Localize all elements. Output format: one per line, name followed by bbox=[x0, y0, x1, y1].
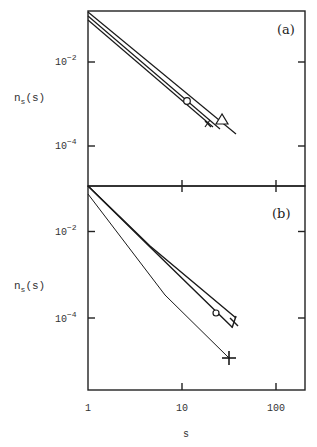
x-axis-label: s bbox=[183, 429, 189, 440]
panel-a-label: (a) bbox=[277, 22, 295, 37]
xtick-label-1: 1 bbox=[85, 403, 91, 414]
ytick-exponent: −4 bbox=[67, 310, 77, 319]
panel-b-series bbox=[88, 186, 238, 365]
axes-frames bbox=[88, 11, 305, 390]
figure bbox=[0, 0, 317, 447]
series-a1-line bbox=[88, 12, 236, 134]
ytick-exponent: −2 bbox=[67, 223, 77, 232]
panel-a-frame bbox=[88, 11, 305, 186]
ylabel-arg: (s) bbox=[25, 280, 45, 292]
ticks bbox=[88, 62, 305, 390]
ytick-base: 10 bbox=[55, 57, 67, 68]
ytick-exponent: −4 bbox=[67, 137, 77, 146]
panel-a-series bbox=[88, 12, 236, 134]
y-axis-label-b: ns(s) bbox=[14, 280, 45, 294]
panel-b-label: (b) bbox=[272, 206, 290, 221]
ytick-b-1e-2: 10−2 bbox=[55, 224, 77, 238]
ytick-base: 10 bbox=[55, 227, 67, 238]
xtick-label-10: 10 bbox=[176, 403, 188, 414]
ytick-a-1e-4: 10−4 bbox=[55, 138, 77, 152]
ylabel-n: n bbox=[14, 92, 21, 104]
circle-marker bbox=[213, 310, 219, 316]
series-b3-line bbox=[88, 194, 229, 358]
ylabel-n: n bbox=[14, 280, 21, 292]
ytick-base: 10 bbox=[55, 314, 67, 325]
series-a3-line bbox=[88, 20, 213, 127]
series-b2-line bbox=[88, 186, 232, 327]
ytick-b-1e-4: 10−4 bbox=[55, 311, 77, 325]
series-a2-line bbox=[88, 16, 220, 129]
xtick-label-100: 100 bbox=[267, 403, 285, 414]
ytick-base: 10 bbox=[55, 141, 67, 152]
circle-marker bbox=[184, 98, 191, 105]
ytick-exponent: −2 bbox=[67, 53, 77, 62]
y-axis-label-a: ns(s) bbox=[14, 92, 45, 106]
ytick-a-1e-2: 10−2 bbox=[55, 54, 77, 68]
ylabel-arg: (s) bbox=[25, 92, 45, 104]
series-b1-line bbox=[88, 186, 236, 318]
